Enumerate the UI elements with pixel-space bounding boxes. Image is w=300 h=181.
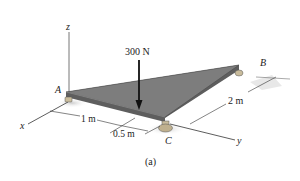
- point-c-label: C: [165, 135, 172, 146]
- plate-top: [66, 65, 239, 117]
- force-label: 300 N: [125, 46, 150, 57]
- figure-caption: (a): [145, 156, 156, 168]
- x-axis-label: x: [19, 120, 25, 131]
- y-axis-label: y: [236, 135, 242, 146]
- dimension-1m: 1 m: [50, 111, 118, 125]
- dimension-2m-label: 2 m: [228, 95, 244, 106]
- point-a-label: A: [54, 84, 62, 95]
- dimension-0-5m-label: 0.5 m: [113, 129, 135, 139]
- triangular-plate-diagram: z x y 300 N A B C 1 m: [0, 0, 300, 181]
- support-c: [159, 121, 173, 132]
- point-b-label: B: [260, 57, 266, 68]
- support-b: [235, 70, 243, 76]
- z-axis: z: [65, 21, 70, 92]
- support-a: [65, 97, 72, 102]
- z-axis-label: z: [65, 21, 70, 32]
- x-axis: x: [19, 102, 68, 131]
- dimension-1m-label: 1 m: [81, 114, 96, 124]
